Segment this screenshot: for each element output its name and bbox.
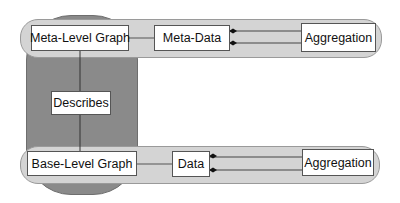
aggregation-diamond-icon xyxy=(209,168,217,173)
meta-level-graph-box: Meta-Level Graph xyxy=(31,25,129,51)
meta-data-box: Meta-Data xyxy=(154,25,230,51)
aggregation-diamond-icon xyxy=(229,29,237,34)
data-box: Data xyxy=(172,151,210,177)
aggregation-diamond-icon xyxy=(229,41,237,46)
describes-box: Describes xyxy=(51,91,111,115)
base-aggregation-box: Aggregation xyxy=(302,149,374,176)
base-level-graph-box: Base-Level Graph xyxy=(27,151,137,176)
aggregation-diamond-icon xyxy=(209,154,217,159)
meta-aggregation-box: Aggregation xyxy=(301,23,376,52)
